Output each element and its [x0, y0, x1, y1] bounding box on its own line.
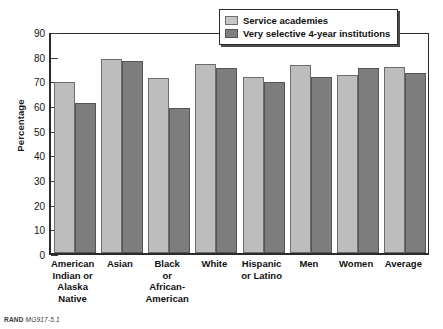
bar: [122, 61, 143, 253]
y-tick-label: 80: [34, 52, 45, 63]
bar: [264, 82, 285, 253]
legend: Service academies Very selective 4-year …: [219, 9, 398, 45]
bar: [243, 77, 264, 253]
x-tick-label-line: Native: [43, 293, 102, 305]
bar: [101, 59, 122, 253]
bar: [337, 75, 358, 253]
bar-group: [148, 33, 190, 253]
bar: [54, 82, 75, 253]
legend-swatch-very-selective: [225, 29, 238, 38]
bar: [169, 108, 190, 253]
x-axis-line: [49, 253, 429, 255]
y-tick-label: 70: [34, 77, 45, 88]
x-tick-label-line: African-: [138, 281, 197, 293]
legend-swatch-service-academies: [225, 16, 238, 25]
y-tick-label: 20: [34, 200, 45, 211]
bar: [195, 64, 216, 253]
bar-group: [337, 33, 379, 253]
figure-credit: RAND MG917-5.1: [4, 316, 60, 323]
y-tick-label: 40: [34, 151, 45, 162]
bar-series-container: [51, 33, 429, 253]
bar: [358, 68, 379, 253]
legend-item: Very selective 4-year institutions: [225, 27, 390, 40]
bar: [75, 103, 96, 253]
x-tick-label-line: or Latino: [232, 270, 291, 282]
y-tick-label: 60: [34, 102, 45, 113]
bar-group: [290, 33, 332, 253]
bar: [311, 77, 332, 253]
x-tick-label-line: or: [138, 270, 197, 282]
bar-group: [384, 33, 426, 253]
y-tick-label: 50: [34, 126, 45, 137]
x-tick-label-line: Indian or: [43, 270, 102, 282]
y-tick-label: 30: [34, 176, 45, 187]
x-tick-label: Average: [374, 258, 433, 270]
y-tick-mark: [51, 255, 58, 256]
legend-item: Service academies: [225, 14, 390, 27]
x-tick-label-line: American: [138, 293, 197, 305]
x-tick-label-line: Average: [374, 258, 433, 270]
credit-figure-number: MG917-5.1: [26, 316, 60, 323]
bar: [405, 73, 426, 253]
bar-group: [243, 33, 285, 253]
bar: [384, 67, 405, 253]
bar-group: [54, 33, 96, 253]
x-tick-label-line: Alaska: [43, 281, 102, 293]
bar-group: [195, 33, 237, 253]
legend-label-service-academies: Service academies: [243, 15, 328, 26]
y-tick-label: 10: [34, 225, 45, 236]
bar: [216, 68, 237, 253]
plot-area: 0102030405060708090: [49, 33, 429, 255]
x-axis-tick-labels: AmericanIndian orAlaskaNativeAsianBlacko…: [49, 258, 429, 316]
y-axis-title: Percentage: [15, 76, 26, 176]
bar-group: [101, 33, 143, 253]
legend-label-very-selective: Very selective 4-year institutions: [243, 28, 390, 39]
bar: [290, 65, 311, 253]
credit-source: RAND: [4, 316, 24, 323]
figure-container: Percentage 0102030405060708090 AmericanI…: [0, 0, 443, 329]
y-tick-label: 90: [34, 28, 45, 39]
bar: [148, 78, 169, 253]
